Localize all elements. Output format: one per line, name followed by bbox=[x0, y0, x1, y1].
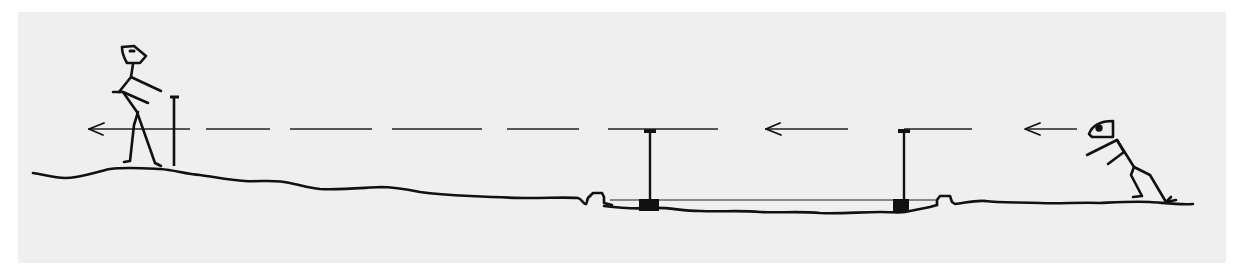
sighting-staff bbox=[170, 97, 179, 166]
eye-icon bbox=[1097, 126, 1102, 131]
post-base-right bbox=[893, 199, 909, 211]
ground-profile bbox=[33, 168, 590, 204]
ground-profile-right bbox=[985, 201, 1193, 204]
trench-lip-right bbox=[937, 196, 985, 205]
trench-lip-left bbox=[590, 193, 612, 205]
crouching-observer-figure bbox=[1087, 121, 1176, 202]
post-base-left bbox=[639, 199, 659, 211]
sight-line-diagram bbox=[0, 0, 1246, 276]
standing-person-figure bbox=[113, 46, 161, 166]
